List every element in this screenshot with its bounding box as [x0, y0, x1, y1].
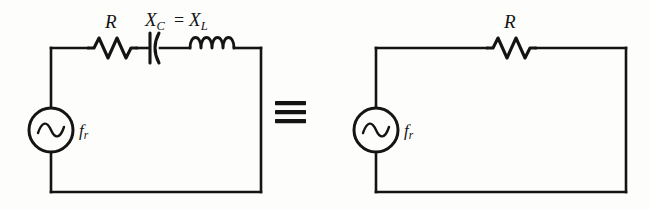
left-capacitor-plate-curved: [155, 33, 159, 63]
right-source-subscript: r: [409, 129, 413, 141]
left-circuit-group: [29, 33, 261, 192]
circuit-diagram-canvas: [0, 0, 650, 210]
left-resistor-zigzag: [88, 38, 137, 58]
left-inductor-coils: [190, 38, 234, 49]
right-source-label: fr: [404, 122, 413, 139]
reactance-inductor-subscript: L: [201, 19, 208, 33]
circuit-figure: R XC=XL fr R fr: [0, 0, 650, 210]
left-source-label: fr: [79, 122, 88, 139]
left-resistor-label-text: R: [105, 11, 117, 32]
left-source-subscript: r: [84, 129, 88, 141]
left-resistor-label: R: [105, 12, 117, 31]
right-circuit-group: [354, 38, 626, 192]
reactance-inductor-symbol: X: [189, 9, 201, 30]
equivalence-symbol-icon: [275, 101, 306, 123]
right-resistor-label: R: [504, 12, 516, 31]
reactance-capacitor-symbol: X: [145, 9, 157, 30]
left-reactance-label: XC=XL: [145, 10, 208, 29]
right-resistor-zigzag: [487, 38, 536, 58]
right-resistor-label-text: R: [504, 11, 516, 32]
reactance-capacitor-subscript: C: [157, 19, 165, 33]
reactance-equals-sign: =: [174, 10, 184, 30]
